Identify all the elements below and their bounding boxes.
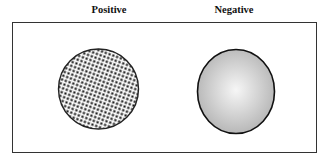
diagram-canvas [0, 0, 332, 162]
negative-ellipse [198, 50, 275, 134]
positive-circle [59, 49, 139, 129]
